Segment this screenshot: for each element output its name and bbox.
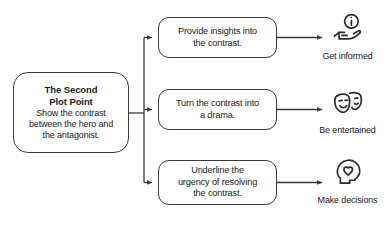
outcome-2[interactable]: Be entertained: [308, 86, 387, 136]
step-2-line1: Turn the contrast into: [176, 98, 259, 108]
theater-masks-icon: [331, 86, 365, 120]
root-title: The Second Plot Point: [45, 84, 98, 107]
step-3-line1: Underline the: [191, 165, 244, 175]
head-with-heart-icon: [331, 156, 365, 190]
outcome-2-label: Be entertained: [319, 125, 375, 136]
outcome-1[interactable]: Get informed: [308, 12, 387, 62]
step-1-line2: the contrast.: [193, 38, 242, 48]
step-2-line2: a drama.: [200, 110, 235, 120]
root-description: Show the contrast between the hero and t…: [29, 108, 113, 141]
root-title-line2: Plot Point: [49, 96, 92, 107]
diagram-canvas: The Second Plot Point Show the contrast …: [0, 0, 389, 225]
step-node-2-text: Turn the contrast into a drama.: [176, 98, 259, 121]
step-node-3-text: Underline the urgency of resolving the c…: [178, 165, 257, 200]
root-desc-line2: between the hero and: [29, 119, 113, 129]
step-node-2[interactable]: Turn the contrast into a drama.: [158, 89, 277, 130]
step-node-1-text: Provide insights into the contrast.: [178, 26, 257, 49]
step-node-1[interactable]: Provide insights into the contrast.: [158, 17, 277, 58]
step-3-line3: the contrast.: [193, 188, 242, 198]
hand-holding-info-icon: [331, 12, 365, 46]
root-title-line1: The Second: [45, 84, 98, 95]
outcome-3[interactable]: Make decisions: [308, 156, 387, 206]
outcome-3-label: Make decisions: [318, 195, 378, 206]
step-node-3[interactable]: Underline the urgency of resolving the c…: [158, 160, 277, 205]
root-desc-line3: the antagonist.: [43, 130, 100, 140]
root-node[interactable]: The Second Plot Point Show the contrast …: [13, 72, 129, 153]
root-desc-line1: Show the contrast: [36, 108, 106, 118]
outcome-1-label: Get informed: [322, 51, 372, 62]
step-1-line1: Provide insights into: [178, 26, 257, 36]
step-3-line2: urgency of resolving: [178, 177, 257, 187]
